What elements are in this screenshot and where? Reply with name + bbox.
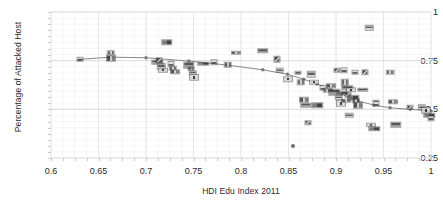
data-point-outlier xyxy=(291,144,295,148)
x-minor-tick xyxy=(87,158,88,161)
y-minor-tick xyxy=(48,36,51,37)
y-minor-tick xyxy=(48,85,51,86)
x-minor-tick xyxy=(51,158,52,161)
data-point-marker xyxy=(340,68,347,74)
data-point-marker xyxy=(365,24,374,31)
x-minor-tick xyxy=(205,158,206,161)
data-point-marker xyxy=(300,103,312,108)
data-point-marker xyxy=(106,55,116,62)
x-minor-tick xyxy=(63,158,64,161)
data-point-marker xyxy=(428,115,435,121)
y-minor-tick xyxy=(48,97,51,98)
data-point-marker xyxy=(231,51,241,56)
y-minor-tick xyxy=(48,24,51,25)
y-minor-tick xyxy=(48,128,51,129)
x-tick-label: 0.8 xyxy=(221,166,261,176)
data-point-marker xyxy=(257,48,269,54)
y-minor-tick xyxy=(48,140,51,141)
data-point-marker xyxy=(170,69,180,75)
data-point-marker xyxy=(211,59,218,65)
plot-area xyxy=(51,12,431,158)
x-minor-tick xyxy=(146,158,147,161)
data-point-marker xyxy=(189,74,199,81)
x-minor-tick xyxy=(241,158,242,161)
x-minor-tick xyxy=(182,158,183,161)
x-tick-label: 0.85 xyxy=(269,166,309,176)
data-point-marker xyxy=(368,126,380,132)
y-minor-tick xyxy=(48,91,51,92)
data-point-marker xyxy=(352,70,359,75)
x-minor-tick xyxy=(194,158,195,161)
y-minor-tick xyxy=(48,67,51,68)
x-minor-tick xyxy=(360,158,361,161)
y-minor-tick xyxy=(48,12,51,13)
x-minor-tick xyxy=(407,158,408,161)
y-minor-tick xyxy=(48,18,51,19)
data-point-marker xyxy=(311,103,323,109)
y-axis-title: Percentage of Attacked Host xyxy=(13,0,23,157)
x-minor-tick xyxy=(110,158,111,161)
x-minor-tick xyxy=(289,158,290,161)
x-minor-tick xyxy=(253,158,254,161)
x-minor-tick xyxy=(336,158,337,161)
data-point-marker xyxy=(372,100,379,107)
x-tick-label: 0.65 xyxy=(79,166,119,176)
data-point-marker xyxy=(390,122,402,129)
x-minor-tick xyxy=(229,158,230,161)
x-tick-label: 0.95 xyxy=(364,166,404,176)
data-point-marker xyxy=(307,71,316,78)
data-point-marker xyxy=(76,57,83,62)
x-minor-tick xyxy=(384,158,385,161)
x-minor-tick xyxy=(324,158,325,161)
y-minor-tick xyxy=(48,73,51,74)
data-point-marker xyxy=(386,70,395,75)
y-minor-tick xyxy=(48,109,51,110)
x-minor-tick xyxy=(122,158,123,161)
y-minor-tick xyxy=(48,30,51,31)
trend-line xyxy=(51,12,431,158)
x-minor-tick xyxy=(277,158,278,161)
data-point-marker xyxy=(276,68,285,73)
y-minor-tick xyxy=(48,158,51,159)
x-minor-tick xyxy=(265,158,266,161)
y-minor-tick xyxy=(48,122,51,123)
data-point-marker xyxy=(161,39,173,45)
x-minor-tick xyxy=(348,158,349,161)
x-minor-tick xyxy=(158,158,159,161)
data-point-marker xyxy=(158,68,168,73)
x-tick-label: 0.7 xyxy=(126,166,166,176)
y-minor-tick xyxy=(48,103,51,104)
x-minor-tick xyxy=(419,158,420,161)
data-point-marker xyxy=(353,102,363,109)
y-minor-tick xyxy=(48,115,51,116)
data-point-marker xyxy=(346,87,356,93)
y-minor-tick xyxy=(48,152,51,153)
y-minor-tick xyxy=(48,61,51,62)
x-minor-tick xyxy=(217,158,218,161)
data-point-marker xyxy=(304,120,311,126)
data-point-marker xyxy=(345,113,354,118)
x-minor-tick xyxy=(99,158,100,161)
x-minor-tick xyxy=(134,158,135,161)
data-point-marker xyxy=(357,88,369,93)
data-point-marker xyxy=(274,56,281,63)
data-point-marker xyxy=(407,105,414,110)
x-minor-tick xyxy=(170,158,171,161)
data-point-marker xyxy=(223,61,232,68)
data-point-marker xyxy=(388,99,398,105)
y-minor-tick xyxy=(48,42,51,43)
data-point-marker xyxy=(297,79,306,85)
x-minor-tick xyxy=(372,158,373,161)
data-point-marker xyxy=(283,76,293,82)
data-point-marker xyxy=(326,83,336,89)
y-minor-tick xyxy=(48,134,51,135)
y-minor-tick xyxy=(48,146,51,147)
data-point-marker xyxy=(197,61,209,66)
data-point-marker xyxy=(309,80,319,85)
x-minor-tick xyxy=(395,158,396,161)
x-tick-label: 1 xyxy=(411,166,443,176)
x-minor-tick xyxy=(75,158,76,161)
x-minor-tick xyxy=(312,158,313,161)
y-minor-tick xyxy=(48,49,51,50)
